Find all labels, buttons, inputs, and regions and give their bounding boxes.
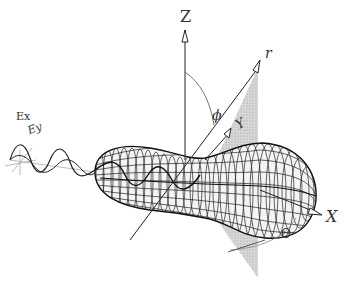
x-axis-label: X [324, 207, 338, 226]
scattering-diagram: Z r Y X ϕ Θ Ex Ey [0, 0, 354, 287]
theta-label: Θ [281, 227, 291, 241]
r-axis-label: r [265, 45, 273, 61]
z-axis-label: Z [180, 7, 191, 26]
scattering-lobe [95, 140, 316, 241]
phi-arc [185, 72, 214, 125]
ex-label: Ex [16, 110, 31, 123]
phi-label: ϕ [212, 107, 222, 123]
z-axis [182, 30, 188, 160]
